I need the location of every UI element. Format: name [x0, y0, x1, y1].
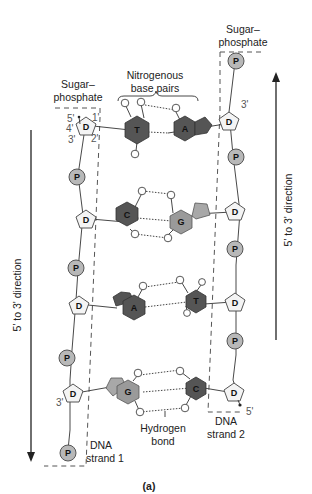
base-label: T	[193, 296, 199, 306]
sugar-label: D	[232, 207, 239, 217]
nitrogenous-base-pairs-label-line2: base pairs	[131, 82, 179, 94]
sugar-phosphate-right-label-line2: phosphate	[218, 36, 267, 48]
sugar-label: D	[83, 122, 90, 132]
nitrogenous-base-pairs-label-line1: Nitrogenous	[127, 69, 184, 81]
dna-strand-2-label-line2: strand 2	[207, 428, 245, 440]
strand-1-outline	[44, 108, 100, 466]
base-pair-1: T A	[121, 98, 212, 158]
svg-text:5': 5'	[246, 406, 254, 417]
strand-2-outline	[208, 52, 265, 412]
atom	[167, 191, 175, 199]
base-label: C	[124, 210, 131, 220]
atom	[184, 310, 191, 317]
atom	[138, 187, 146, 195]
dna-strand-1-label-line1: DNA	[90, 439, 112, 451]
sugar-phosphate-right-label-line1: Sugar–	[226, 23, 260, 35]
sugar-phosphate-left-label-line2: phosphate	[53, 91, 102, 103]
sugar-label: D	[231, 388, 238, 398]
base-label: C	[193, 384, 200, 394]
svg-text:3': 3'	[241, 99, 249, 110]
left-direction-label: 5' to 3' direction	[11, 258, 23, 331]
sugar-label: D	[76, 301, 83, 311]
dna-strand-1-label-line2: strand 1	[86, 452, 124, 464]
base-pair-4: G C	[106, 367, 206, 417]
atom	[181, 404, 189, 412]
svg-text:3': 3'	[68, 134, 76, 145]
sugar-phosphate-left-label-line1: Sugar–	[61, 78, 95, 90]
hydrogen-bond-label-line2: bond	[151, 435, 175, 447]
phosphate-label: P	[232, 336, 238, 346]
svg-text:1': 1'	[92, 112, 100, 123]
atom	[136, 408, 144, 416]
atom	[172, 104, 180, 112]
dna-strand-2-label-line1: DNA	[215, 415, 237, 427]
hydrogen-bond-label-line1: Hydrogen	[140, 422, 186, 434]
base-label: G	[177, 217, 184, 227]
svg-text:2': 2'	[91, 133, 99, 144]
sugar-label: D	[226, 117, 233, 127]
base-label: A	[131, 303, 138, 313]
phosphate-label: P	[233, 152, 239, 162]
svg-text:3': 3'	[56, 397, 64, 408]
atom	[164, 234, 172, 242]
left-direction-arrow	[27, 130, 35, 462]
carbon-labels: 5' 4' 3' 1' 2' 3' 3' 5'	[56, 99, 254, 417]
base-pair-3: A T	[113, 276, 206, 320]
base-label: G	[124, 387, 131, 397]
right-direction-arrow	[272, 72, 280, 340]
phosphate-label: P	[233, 56, 239, 66]
phosphate-label: P	[73, 263, 79, 273]
figure-caption: (a)	[143, 480, 156, 492]
sugar-label: D	[70, 389, 77, 399]
atom	[139, 282, 147, 290]
atom	[131, 230, 139, 238]
strand-1-nucleotides: D P D P D P D P	[59, 117, 96, 461]
atom	[137, 98, 145, 106]
dna-structure-diagram: 5' to 3' direction 5' to 3' direction Su…	[0, 0, 312, 494]
atom	[134, 369, 142, 377]
atom	[176, 276, 184, 284]
base-label: A	[182, 124, 189, 134]
phosphate-label: P	[232, 244, 238, 254]
phosphate-label: P	[74, 172, 80, 182]
sugar-label: D	[232, 298, 239, 308]
base-pair-2: C G	[116, 187, 210, 242]
phosphate-label: P	[64, 353, 70, 363]
atom	[121, 99, 129, 107]
right-direction-label: 5' to 3' direction	[282, 173, 294, 246]
atom	[131, 150, 139, 158]
atom	[176, 367, 184, 375]
svg-text:4': 4'	[66, 123, 74, 134]
base-label: T	[134, 125, 140, 135]
sugar-label: D	[83, 215, 90, 225]
phosphate-label: P	[65, 448, 71, 458]
atom	[199, 279, 206, 286]
